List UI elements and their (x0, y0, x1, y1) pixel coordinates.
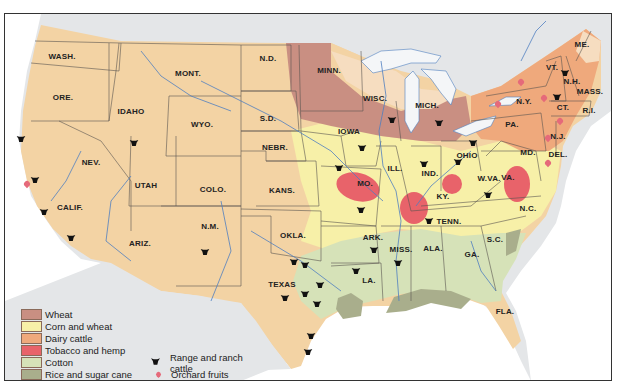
state-label: MINN. (317, 66, 341, 75)
state-label: S.C. (487, 235, 503, 244)
dairy-cattle-swatch (21, 333, 42, 344)
state-label: N.Y. (516, 97, 531, 106)
cattle-head-icon (40, 208, 49, 216)
cattle-head-icon (388, 116, 397, 124)
cattle-head-icon (484, 191, 493, 199)
state-label: GA. (465, 250, 480, 259)
state-label: LA. (362, 276, 376, 285)
cattle-head-icon (67, 234, 76, 242)
cattle-head-icon (435, 119, 444, 127)
state-label: ARK. (363, 233, 383, 242)
state-label: WISC. (363, 94, 387, 103)
state-label: OKLA. (280, 231, 306, 240)
state-label: MONT. (175, 69, 201, 78)
legend-item-wheat: Wheat (21, 309, 72, 320)
cattle-head-icon (335, 164, 344, 172)
state-label: CT. (557, 103, 570, 112)
cattle-head-icon (201, 248, 210, 256)
cattle-head-icon (394, 259, 403, 267)
legend-item-rice-and-sugar-cane: Rice and sugar cane (21, 369, 132, 380)
cattle-head-icon (290, 258, 299, 266)
cattle-head-icon (307, 332, 316, 340)
state-label: ORE. (53, 93, 73, 102)
state-label: MD. (520, 148, 535, 157)
cattle-head-icon (304, 348, 313, 356)
cattle-head-icon (357, 206, 366, 214)
cattle-head-icon (313, 300, 322, 308)
state-label: FLA. (496, 307, 515, 316)
state-label: NEBR. (262, 143, 288, 152)
legend-item-orchard-fruits: Orchard fruits (151, 369, 229, 380)
state-label: VA. (501, 173, 514, 182)
cattle-head-icon (316, 281, 325, 289)
cattle-head-icon (301, 261, 310, 269)
cattle-head-icon (281, 294, 290, 302)
legend: Wheat Corn and wheat Dairy cattle Tobacc… (11, 309, 261, 379)
state-label: W.VA. (477, 174, 500, 183)
legend-item-dairy-cattle: Dairy cattle (21, 333, 93, 344)
cattle-head-icon (561, 69, 570, 77)
state-label: IDAHO (118, 107, 145, 116)
cattle-head-icon (301, 290, 310, 298)
state-label: CALIF. (57, 203, 83, 212)
legend-item-range-cattle: Range and ranch cattle (151, 357, 261, 368)
cattle-head-icon (31, 176, 40, 184)
agriculture-map: WASH.ORE.IDAHOMONT.WYO.N.D.S.D.NEBR.NEV.… (4, 13, 612, 381)
cattle-head-icon (358, 144, 367, 152)
cattle-head-icon (420, 160, 429, 168)
legend-item-tobacco-and-hemp: Tobacco and hemp (21, 345, 125, 356)
cattle-head-icon (370, 246, 379, 254)
state-label: ARIZ. (129, 239, 151, 248)
state-label: MASS. (577, 87, 603, 96)
state-label: S.D. (260, 114, 276, 123)
cattle-head-icon (17, 135, 26, 143)
corn-and-wheat-swatch (21, 321, 42, 332)
state-label: WASH. (48, 52, 75, 61)
state-label: ILL. (387, 164, 402, 173)
state-label: TEXAS (268, 280, 296, 289)
state-label: IND. (422, 169, 439, 178)
state-label: WYO. (191, 120, 213, 129)
state-label: N.M. (201, 222, 219, 231)
state-label: PA. (505, 120, 518, 129)
state-label: IOWA (338, 127, 360, 136)
state-label: ALA. (423, 244, 442, 253)
wheat-swatch (21, 309, 42, 320)
state-label: UTAH (135, 181, 157, 190)
state-label: MISS. (390, 245, 413, 254)
cattle-head-icon (469, 139, 478, 147)
state-label: MO. (357, 179, 373, 188)
state-label: ME. (575, 40, 590, 49)
state-label: VT. (546, 63, 558, 72)
state-label: R.I. (582, 106, 595, 115)
state-label: KANS. (269, 186, 295, 195)
cattle-head-icon (352, 267, 361, 275)
legend-item-cotton: Cotton (21, 357, 73, 368)
state-label: MICH. (415, 101, 439, 110)
state-label: KY. (436, 192, 449, 201)
state-label: N.J. (550, 132, 565, 141)
state-label: DEL. (548, 150, 567, 159)
orchard-fruit-icon (151, 372, 165, 377)
state-label: N.C. (520, 204, 537, 213)
rice-and-sugar-cane-swatch (21, 369, 42, 380)
cattle-head-icon (454, 158, 463, 166)
cattle-head-icon (425, 217, 434, 225)
cattle-head-icon (130, 139, 139, 147)
cotton-swatch (21, 357, 42, 368)
cattle-head-icon (553, 93, 562, 101)
state-label: N.H. (564, 77, 581, 86)
state-label: NEV. (82, 158, 101, 167)
state-label: COLO. (200, 185, 226, 194)
legend-item-corn-and-wheat: Corn and wheat (21, 321, 112, 332)
state-label: TENN. (437, 217, 462, 226)
tobacco-and-hemp-swatch (21, 345, 42, 356)
state-label: N.D. (260, 54, 277, 63)
